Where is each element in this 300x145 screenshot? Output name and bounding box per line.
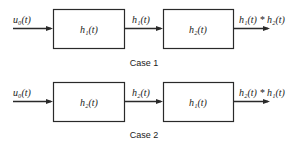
intermediate-signal-label: h₁(t) (132, 14, 151, 26)
case-2-diagram: u₀(t) h₂(t) h₂(t) h₁(t) h₂(t) * h₁(t) Ca… (13, 83, 286, 141)
arrowhead-icon (263, 99, 270, 104)
block-2-label: h₂(t) (189, 24, 208, 36)
case-1-diagram: u₀(t) h₁(t) h₁(t) h₂(t) h₁(t) * h₂(t) Ca… (13, 10, 286, 69)
input-signal-label: u₀(t) (13, 87, 32, 99)
case-2-caption: Case 2 (130, 130, 159, 140)
arrowhead-icon (46, 26, 53, 31)
output-signal-label: h₁(t) * h₂(t) (239, 14, 286, 26)
block-1-label: h₁(t) (80, 24, 99, 36)
case-1-caption: Case 1 (130, 58, 159, 68)
arrowhead-icon (156, 99, 163, 104)
output-signal-label: h₂(t) * h₁(t) (239, 87, 286, 99)
arrowhead-icon (263, 26, 270, 31)
arrowhead-icon (46, 99, 53, 104)
block-diagram: u₀(t) h₁(t) h₁(t) h₂(t) h₁(t) * h₂(t) Ca… (0, 0, 300, 145)
intermediate-signal-label: h₂(t) (132, 87, 151, 99)
input-signal-label: u₀(t) (13, 14, 32, 26)
block-1-label: h₂(t) (80, 97, 99, 109)
block-2-label: h₁(t) (189, 97, 208, 109)
arrowhead-icon (156, 26, 163, 31)
